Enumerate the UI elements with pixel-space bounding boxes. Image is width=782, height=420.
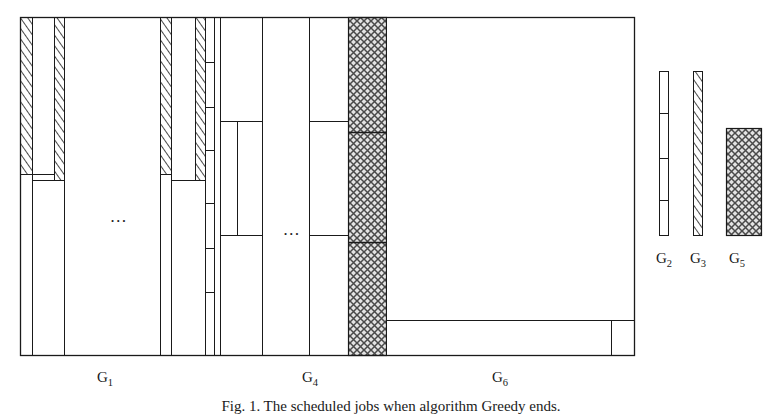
bar-g4-plain-7 — [310, 236, 349, 356]
legend-label-g3-base: G — [690, 250, 701, 266]
group-g1-bars — [21, 18, 206, 356]
group-label-g6-base: G — [492, 369, 503, 385]
bar-g6-plain-strip — [387, 321, 612, 356]
group-label-g6: G6 — [492, 369, 508, 388]
group-label-g1-base: G — [97, 369, 108, 385]
group-g2-bar — [206, 18, 221, 356]
legend-swatch-g3 — [694, 72, 703, 236]
group-g5-bar — [349, 18, 387, 356]
bar-g4-plain-4 — [263, 18, 310, 356]
group-g4-bars — [221, 18, 349, 356]
bar-g1-hatch-4 — [196, 18, 206, 181]
legend-label-g2: G2 — [656, 250, 672, 269]
bar-g4-plain-3 — [221, 236, 263, 356]
bar-g1-plain-1 — [21, 175, 33, 356]
group-g6-bars — [387, 18, 635, 356]
bar-g1-plain-5 — [172, 18, 196, 181]
legend: G2 G3 G5 — [656, 72, 762, 270]
bar-g1-plain-6 — [161, 175, 172, 356]
group-label-g1-sub: 1 — [108, 377, 113, 388]
bar-g6-plain-right — [612, 321, 635, 356]
bar-g6-plain-main — [387, 18, 635, 321]
bar-g1-plain-4 — [65, 18, 161, 356]
legend-label-g5-sub: 5 — [740, 258, 745, 269]
scheduling-diagram: … … G1 G4 G6 G2 G3 G5 — [0, 0, 782, 420]
group-label-g4-base: G — [302, 369, 313, 385]
group-label-g1: G1 — [97, 369, 113, 388]
bar-g4-plain-1 — [221, 18, 263, 122]
legend-g2-rect — [660, 72, 669, 236]
group-label-g6-sub: 6 — [503, 377, 508, 388]
legend-swatch-g5 — [727, 129, 762, 236]
bar-g4-plain-5 — [310, 18, 349, 122]
bar-g2-right-strip — [215, 18, 221, 356]
ellipsis-g4: … — [283, 220, 302, 239]
group-label-g4-sub: 4 — [313, 377, 319, 388]
bar-g4-plain-6 — [310, 122, 349, 236]
legend-label-g5-base: G — [729, 250, 740, 266]
bar-g5-cross — [349, 18, 387, 356]
bar-g1-hatch-3 — [161, 18, 172, 175]
legend-label-g2-sub: 2 — [667, 258, 672, 269]
legend-label-g3: G3 — [690, 250, 706, 269]
bar-g1-hatch-1 — [21, 18, 33, 175]
figure-container: … … G1 G4 G6 G2 G3 G5 Fig. 1. The schedu… — [0, 0, 782, 420]
bar-g1-plain-2 — [33, 18, 55, 175]
bar-g1-hatch-2 — [55, 18, 65, 181]
group-label-g4: G4 — [302, 369, 319, 388]
bar-g1-plain-3 — [33, 181, 65, 356]
figure-caption: Fig. 1. The scheduled jobs when algorith… — [0, 398, 782, 415]
legend-swatch-g2 — [660, 72, 669, 236]
legend-label-g5: G5 — [729, 250, 745, 269]
ellipsis-g1: … — [110, 207, 129, 226]
bar-g1-plain-7 — [172, 181, 206, 356]
legend-label-g3-sub: 3 — [701, 258, 706, 269]
bar-g2-segmented — [206, 18, 215, 356]
legend-label-g2-base: G — [656, 250, 667, 266]
